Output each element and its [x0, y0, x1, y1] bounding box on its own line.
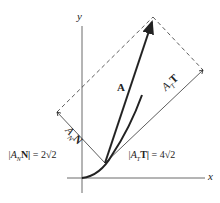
eq-normal-open: |A: [8, 149, 17, 160]
eq-tangential-unit: T|: [140, 149, 149, 160]
tangential-magnitude-equation: |ATT| = 4√2: [128, 149, 175, 162]
diagram-canvas: [0, 0, 220, 203]
eq-tangential-rhs: = 4√2: [149, 149, 175, 160]
y-axis-label: y: [77, 10, 82, 22]
eq-normal-rhs: = 2√2: [30, 149, 56, 160]
dashed-edge-top-right: [153, 17, 203, 70]
eq-tangential-open: |A: [128, 149, 137, 160]
vector-A-label: A: [117, 81, 125, 93]
vector-A: [105, 22, 152, 163]
x-axis-label: x: [208, 170, 213, 182]
normal-magnitude-equation: |ANN| = 2√2: [8, 149, 56, 162]
eq-normal-unit: N|: [21, 149, 30, 160]
